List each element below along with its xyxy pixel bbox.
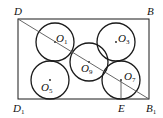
diagonal-DB1 xyxy=(18,19,149,99)
label-o1: O1 xyxy=(56,32,68,46)
label-e: E xyxy=(117,102,125,114)
label-o5: O5 xyxy=(41,81,53,95)
label-d: D xyxy=(13,5,22,17)
label-o7: O7 xyxy=(124,70,136,84)
center-dot-o3 xyxy=(115,41,117,43)
label-d1: D1 xyxy=(12,102,25,116)
figure-shapes xyxy=(18,19,149,99)
center-dot-o5 xyxy=(49,79,51,81)
geometry-figure: DBD1B1EO1O3O9O5O7 xyxy=(0,0,163,118)
label-o3: O3 xyxy=(118,32,130,46)
label-b1: B1 xyxy=(146,102,157,116)
label-b: B xyxy=(147,5,154,17)
